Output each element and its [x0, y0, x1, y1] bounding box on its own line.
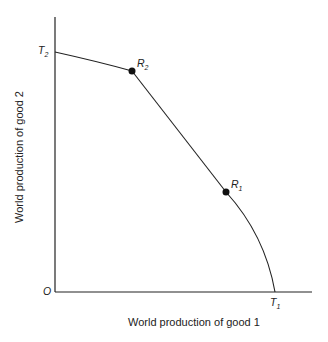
- label-T2: T2: [38, 44, 48, 58]
- point-R2-dot: [129, 68, 136, 75]
- label-R2: R2: [137, 57, 149, 71]
- x-axis-title: World production of good 1: [128, 316, 260, 328]
- y-axis-title: World production of good 2: [13, 85, 25, 229]
- frontier-curve-upper: [55, 52, 132, 71]
- label-T1: T1: [270, 296, 280, 310]
- origin-label: O: [43, 285, 51, 297]
- point-R1-dot: [223, 189, 230, 196]
- label-R1: R1: [231, 178, 243, 192]
- frontier-linear-segment: [132, 71, 226, 192]
- frontier-curve-lower: [226, 192, 275, 292]
